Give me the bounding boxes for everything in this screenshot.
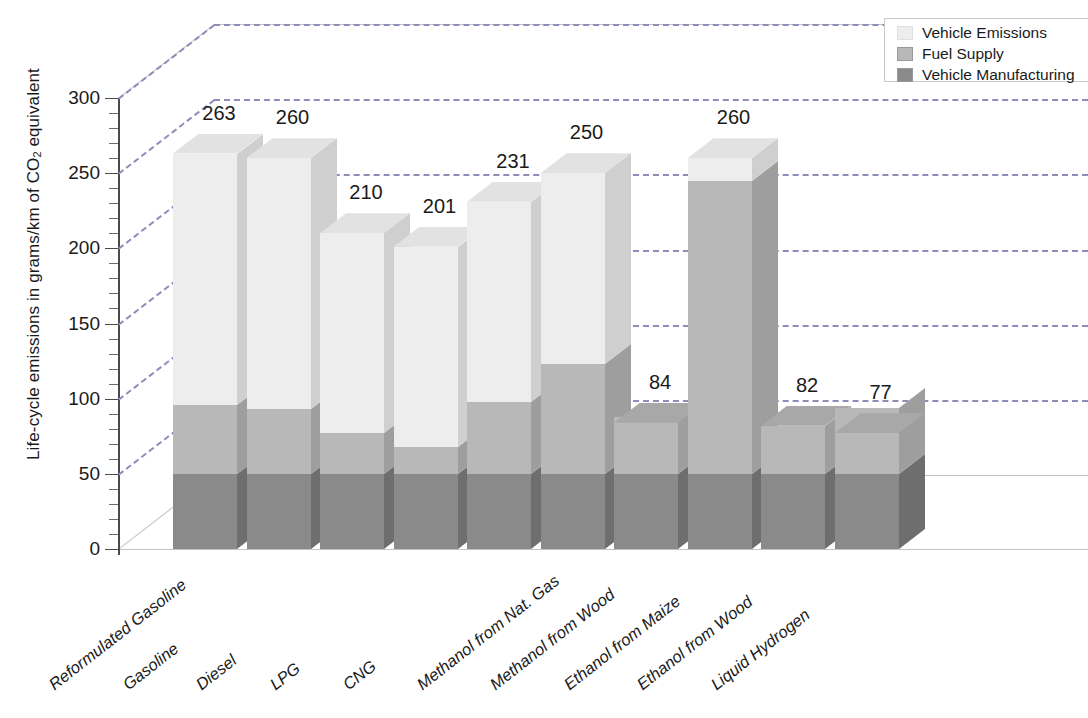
bar-10[interactable]	[835, 0, 899, 718]
segment-fuel-supply-face	[394, 447, 458, 474]
segment-vehicle-emissions-face	[173, 154, 237, 405]
y-axis-minor-tick-10	[109, 534, 118, 535]
segment-vehicle-emissions-face	[541, 173, 605, 364]
y-axis-minor-tick-220	[109, 218, 118, 219]
segment-vehicle-emissions	[320, 233, 384, 433]
legend-swatch-2	[897, 47, 913, 61]
legend-item-3: Vehicle Manufacturing	[897, 65, 1088, 85]
bar-4[interactable]	[394, 0, 458, 718]
segment-vehicle-manufacturing	[541, 474, 605, 549]
y-axis-label-300: 300	[20, 87, 100, 109]
y-axis-tick-250	[105, 173, 118, 174]
y-axis-minor-tick-70	[109, 444, 118, 445]
segment-vehicle-emissions-face	[688, 158, 752, 181]
y-axis-spine	[118, 98, 120, 555]
segment-vehicle-manufacturing-face	[614, 474, 678, 549]
segment-vehicle-emissions-face	[467, 202, 531, 402]
y-axis-minor-tick-290	[109, 113, 118, 114]
segment-fuel-supply-face	[320, 433, 384, 474]
y-axis-minor-tick-170	[109, 293, 118, 294]
legend-swatch-3	[897, 68, 913, 82]
chart-legend: Vehicle EmissionsFuel SupplyVehicle Manu…	[884, 18, 1088, 82]
chart-root: Life-cycle emissions in grams/km of CO2 …	[0, 0, 1088, 718]
y-axis-label-250: 250	[20, 162, 100, 184]
segment-vehicle-emissions-face	[247, 158, 311, 409]
y-axis-minor-tick-120	[109, 369, 118, 370]
segment-fuel-supply-face	[614, 417, 678, 474]
legend-swatch-1	[897, 26, 913, 40]
segment-fuel-supply	[614, 417, 678, 474]
bar-value-label-10: 77	[869, 381, 891, 404]
segment-fuel-supply-face	[541, 364, 605, 474]
y-axis-minor-tick-270	[109, 143, 118, 144]
y-axis-tick-200	[105, 248, 118, 249]
legend-label-2: Fuel Supply	[922, 45, 1004, 63]
y-axis-tick-100	[105, 399, 118, 400]
segment-fuel-supply	[761, 426, 825, 474]
segment-vehicle-manufacturing	[688, 474, 752, 549]
y-axis-label-0: 0	[20, 538, 100, 560]
bar-value-label-1: 263	[202, 102, 235, 125]
segment-vehicle-manufacturing	[467, 474, 531, 549]
bar-value-label-3: 210	[349, 181, 382, 204]
y-axis-minor-tick-80	[109, 429, 118, 430]
y-axis-minor-tick-140	[109, 339, 118, 340]
y-axis-minor-tick-90	[109, 414, 118, 415]
y-axis-minor-tick-190	[109, 263, 118, 264]
bar-value-label-8: 260	[717, 106, 750, 129]
segment-fuel-supply-face	[688, 181, 752, 474]
segment-fuel-supply	[541, 364, 605, 474]
segment-vehicle-manufacturing-face	[173, 474, 237, 549]
segment-vehicle-emissions	[247, 158, 311, 409]
segment-vehicle-manufacturing-face	[394, 474, 458, 549]
bar-value-label-9: 82	[796, 374, 818, 397]
segment-vehicle-emissions-face	[320, 233, 384, 433]
segment-vehicle-manufacturing	[394, 474, 458, 549]
segment-fuel-supply-face	[761, 426, 825, 474]
segment-fuel-supply	[467, 402, 531, 474]
segment-vehicle-manufacturing-face	[320, 474, 384, 549]
legend-item-2: Fuel Supply	[897, 44, 1088, 64]
legend-label-1: Vehicle Emissions	[922, 24, 1047, 42]
segment-fuel-supply	[173, 405, 237, 474]
y-axis-label-200: 200	[20, 237, 100, 259]
bar-value-label-7: 84	[649, 371, 671, 394]
y-axis-minor-tick-130	[109, 354, 118, 355]
segment-vehicle-manufacturing-face	[835, 474, 899, 549]
bar-value-label-6: 250	[570, 121, 603, 144]
segment-vehicle-manufacturing	[173, 474, 237, 549]
legend-item-1: Vehicle Emissions	[897, 23, 1088, 43]
plot-area: 050100150200250300263Reformulated Gasoli…	[0, 0, 1088, 718]
segment-fuel-supply	[320, 433, 384, 474]
y-axis-tick-300	[105, 98, 118, 99]
segment-vehicle-manufacturing	[614, 474, 678, 549]
category-label-1: Reformulated Gasoline	[45, 575, 190, 694]
y-axis-minor-tick-110	[109, 384, 118, 385]
y-axis-minor-tick-40	[109, 489, 118, 490]
segment-fuel-supply	[247, 409, 311, 474]
segment-vehicle-manufacturing-face	[541, 474, 605, 549]
segment-fuel-supply-face	[247, 409, 311, 474]
y-axis-minor-tick-230	[109, 203, 118, 204]
segment-vehicle-manufacturing-face	[247, 474, 311, 549]
segment-vehicle-emissions	[688, 158, 752, 181]
y-axis-label-50: 50	[20, 463, 100, 485]
segment-vehicle-manufacturing	[320, 474, 384, 549]
y-axis-tick-0	[105, 549, 118, 550]
y-axis-minor-tick-240	[109, 188, 118, 189]
segment-vehicle-manufacturing	[247, 474, 311, 549]
bar-value-label-4: 201	[423, 195, 456, 218]
segment-vehicle-manufacturing-face	[467, 474, 531, 549]
y-axis-tick-150	[105, 324, 118, 325]
segment-fuel-supply	[394, 447, 458, 474]
segment-vehicle-emissions	[541, 173, 605, 364]
bar-value-label-5: 231	[496, 150, 529, 173]
y-axis-minor-tick-280	[109, 128, 118, 129]
segment-fuel-supply	[688, 181, 752, 474]
bar-3[interactable]	[320, 0, 384, 718]
segment-vehicle-emissions	[467, 202, 531, 402]
segment-vehicle-emissions	[173, 154, 237, 405]
y-axis-minor-tick-180	[109, 278, 118, 279]
y-axis-minor-tick-160	[109, 308, 118, 309]
y-axis-minor-tick-260	[109, 158, 118, 159]
